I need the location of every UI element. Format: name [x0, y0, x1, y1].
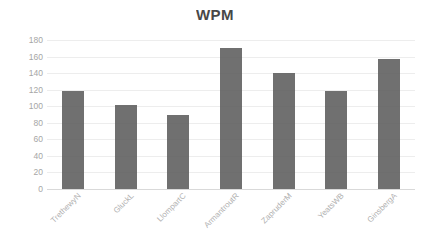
- y-tick-label-140: 140: [9, 69, 43, 78]
- bar-LlompartC[interactable]: [167, 115, 189, 189]
- y-tick-label-0: 0: [9, 185, 43, 194]
- x-tick-label-ArmantroutR: ArmantroutR: [198, 192, 240, 234]
- x-tick-label-GluckL: GluckL: [93, 192, 135, 234]
- bar-ArmantroutR[interactable]: [220, 48, 242, 189]
- chart-title: WPM: [0, 6, 430, 23]
- plot-area: [47, 40, 415, 189]
- x-tick-label-TrethewyN: TrethewyN: [41, 192, 83, 234]
- y-tick-label-40: 40: [9, 152, 43, 161]
- y-tick-label-100: 100: [9, 102, 43, 111]
- x-tick-label-YeatsWB: YeatsWB: [303, 192, 345, 234]
- y-tick-label-160: 160: [9, 52, 43, 61]
- bar-ZapruderM[interactable]: [273, 73, 295, 189]
- bar-YeatsWB[interactable]: [325, 91, 347, 189]
- bar-GinsbergA[interactable]: [378, 59, 400, 189]
- x-tick-label-ZapruderM: ZapruderM: [251, 192, 293, 234]
- x-tick-label-GinsbergA: GinsbergA: [356, 192, 398, 234]
- y-tick-label-80: 80: [9, 119, 43, 128]
- bars-group: [47, 40, 415, 189]
- y-tick-label-20: 20: [9, 168, 43, 177]
- bar-GluckL[interactable]: [115, 105, 137, 189]
- bar-TrethewyN[interactable]: [62, 91, 84, 190]
- y-tick-label-60: 60: [9, 135, 43, 144]
- wpm-bar-chart: WPM 180160140120100806040200 TrethewyNGl…: [0, 0, 430, 250]
- y-axis: 180160140120100806040200: [5, 40, 43, 189]
- x-axis: TrethewyNGluckLLlompartCArmantroutRZapru…: [47, 190, 415, 250]
- y-tick-label-180: 180: [9, 36, 43, 45]
- y-tick-label-120: 120: [9, 85, 43, 94]
- x-tick-label-LlompartC: LlompartC: [146, 192, 188, 234]
